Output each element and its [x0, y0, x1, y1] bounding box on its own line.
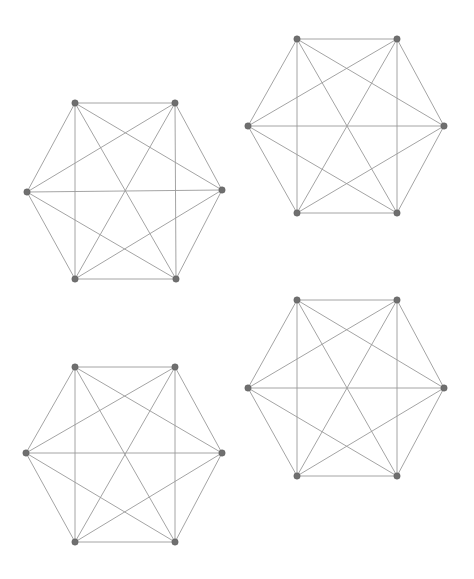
graph-bottom-right [0, 0, 474, 579]
graph-vertex [245, 385, 251, 391]
graph-edge [397, 300, 444, 388]
graph-vertex [441, 385, 447, 391]
graph-edge [297, 300, 444, 388]
graph-edge [248, 388, 397, 476]
graph-vertex [394, 297, 400, 303]
graph-edge [397, 388, 444, 476]
graph-edge [248, 300, 297, 388]
edge-group [248, 300, 444, 476]
figure-canvas [0, 0, 474, 579]
graph-vertex [294, 297, 300, 303]
graph-edge [297, 388, 444, 476]
graph-vertex [294, 473, 300, 479]
graph-vertex [394, 473, 400, 479]
graph-edge [248, 388, 297, 476]
graph-edge [248, 300, 397, 388]
